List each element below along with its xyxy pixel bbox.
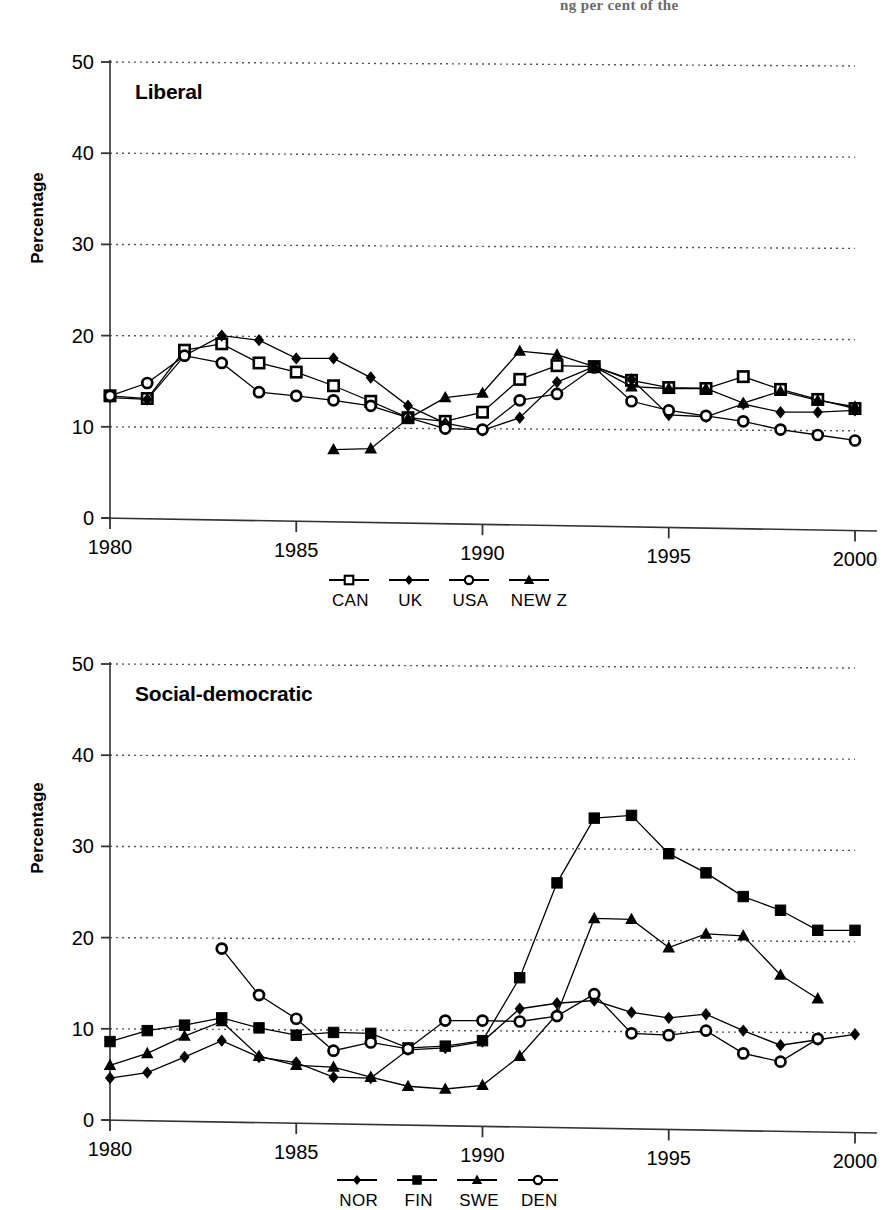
data-point	[178, 1029, 191, 1040]
data-point	[515, 395, 525, 405]
data-point	[664, 1030, 674, 1040]
gridline	[110, 664, 855, 668]
legend-item-swe[interactable]: SWE	[456, 1170, 499, 1210]
data-point	[478, 1016, 488, 1026]
legend-label: FIN	[405, 1191, 433, 1210]
data-point	[700, 927, 713, 938]
y-axis-tick-label: 40	[72, 142, 94, 164]
data-point	[589, 813, 599, 823]
data-point	[588, 912, 601, 923]
data-point	[403, 400, 413, 412]
series-usa	[105, 351, 860, 446]
data-point	[328, 1071, 338, 1083]
data-point	[776, 1057, 786, 1067]
x-axis-tick-label: 2000	[833, 548, 878, 570]
partial-page-header: ng per cent of the	[560, 0, 890, 14]
data-point	[254, 358, 264, 368]
data-point	[850, 1028, 860, 1040]
data-point	[477, 407, 487, 417]
data-point	[364, 442, 377, 453]
data-point	[478, 425, 488, 435]
chart-panel-social-democratic: Percentage Social-democratic 01020304050…	[0, 628, 895, 1178]
data-point	[626, 1006, 636, 1018]
data-point	[552, 389, 562, 399]
data-point	[217, 358, 227, 368]
y-axis-tick-label: 10	[72, 1018, 94, 1040]
gridline	[110, 62, 855, 66]
data-point	[179, 1051, 189, 1063]
data-point	[738, 1048, 748, 1058]
legend-marker-filled-triangle	[456, 1170, 498, 1190]
data-point	[775, 1039, 785, 1051]
data-point	[328, 1027, 338, 1037]
data-point	[217, 944, 227, 954]
legend-item-usa[interactable]: USA	[448, 570, 490, 611]
data-point	[811, 992, 824, 1003]
x-axis-tick-label: 1990	[460, 1144, 505, 1166]
data-point	[664, 848, 674, 858]
data-point	[813, 430, 823, 440]
legend-item-new-z[interactable]: NEW Z	[508, 570, 567, 611]
series-new-z	[327, 345, 861, 455]
data-point	[850, 925, 860, 935]
data-point	[701, 868, 711, 878]
data-point	[141, 1047, 154, 1058]
x-axis-tick-label: 1985	[274, 539, 319, 561]
y-axis-tick-label: 10	[72, 416, 94, 438]
legend-item-can[interactable]: CAN	[328, 570, 370, 611]
legend-marker-open-circle	[517, 1170, 559, 1190]
data-point	[738, 416, 748, 426]
y-axis-tick-label: 40	[72, 744, 94, 766]
data-point	[366, 1037, 376, 1047]
legend-item-uk[interactable]: UK	[388, 570, 430, 611]
x-axis-tick-label: 1995	[647, 1147, 692, 1169]
data-point	[552, 360, 562, 370]
legend-marker-filled-triangle	[508, 570, 550, 590]
data-point	[254, 387, 264, 397]
data-point	[179, 1020, 189, 1030]
series-can	[105, 339, 860, 427]
data-point	[105, 391, 115, 401]
data-point	[738, 371, 748, 381]
series-swe	[104, 912, 824, 1094]
series-line	[110, 918, 818, 1089]
data-point	[477, 1035, 487, 1045]
data-point	[738, 891, 748, 901]
data-point	[291, 391, 301, 401]
data-point	[254, 1023, 264, 1033]
legend-label: SWE	[459, 1191, 499, 1210]
data-point	[291, 1014, 301, 1024]
chart-panel-liberal: Percentage Liberal 010203040501980198519…	[0, 18, 895, 618]
gridline	[110, 846, 855, 850]
y-axis-tick-label: 50	[72, 653, 94, 675]
data-point	[701, 411, 711, 421]
data-point	[664, 1012, 674, 1024]
y-axis-tick-label: 20	[72, 325, 94, 347]
chart-legend-liberal: CANUKUSANEW Z	[0, 570, 895, 611]
data-point	[552, 997, 562, 1009]
data-point	[254, 990, 264, 1000]
data-point	[626, 810, 636, 820]
data-point	[552, 1011, 562, 1021]
legend-item-den[interactable]: DEN	[517, 1170, 559, 1210]
legend-item-nor[interactable]: NOR	[336, 1170, 378, 1210]
data-point	[701, 1026, 711, 1036]
data-point	[738, 1024, 748, 1036]
data-point	[552, 376, 562, 388]
data-point	[737, 929, 750, 940]
data-point	[813, 925, 823, 935]
legend-marker-filled-diamond	[336, 1170, 378, 1190]
x-axis-tick-label: 1995	[647, 545, 692, 567]
legend-label: DEN	[521, 1191, 558, 1210]
chart-plot-liberal: 0102030405019801985199019952000	[0, 18, 895, 618]
x-axis-line	[102, 518, 877, 531]
y-axis-tick-label: 20	[72, 927, 94, 949]
data-point	[329, 395, 339, 405]
chart-legend-social-democratic: NORFINSWEDEN	[0, 1170, 895, 1210]
legend-item-fin[interactable]: FIN	[396, 1170, 438, 1210]
data-point	[105, 1036, 115, 1046]
data-point	[366, 371, 376, 383]
data-point	[291, 367, 301, 377]
data-point	[105, 1072, 115, 1084]
data-point	[328, 381, 338, 391]
